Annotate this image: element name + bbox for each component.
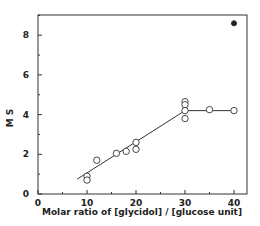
data-points: [84, 21, 237, 184]
y-axis-title: M S: [5, 109, 15, 128]
open-data-point: [182, 115, 188, 121]
trend-line: [77, 111, 234, 179]
axis-ticks: [38, 15, 234, 194]
trend-line-path: [77, 111, 234, 179]
open-data-point: [113, 150, 119, 156]
open-data-point: [206, 106, 212, 112]
x-tick-label: 0: [35, 198, 41, 208]
open-data-point: [182, 107, 188, 113]
ms-vs-molar-ratio-chart: 01020304002468 M S Molar ratio of [glyci…: [0, 0, 260, 226]
open-data-point: [94, 157, 100, 163]
open-data-point: [133, 139, 139, 145]
open-data-point: [123, 148, 129, 154]
y-tick-label: 6: [23, 70, 29, 80]
open-data-point: [133, 146, 139, 152]
y-tick-label: 0: [23, 189, 29, 199]
x-axis-title: Molar ratio of [glycidol] / [glucose uni…: [42, 207, 242, 217]
plot-frame: [38, 15, 247, 194]
tick-labels: 01020304002468: [23, 30, 241, 208]
open-data-point: [84, 177, 90, 183]
filled-data-point: [231, 21, 236, 26]
open-data-point: [182, 101, 188, 107]
y-tick-label: 2: [23, 149, 29, 159]
y-tick-label: 8: [23, 30, 29, 40]
open-data-point: [231, 107, 237, 113]
y-tick-label: 4: [23, 110, 29, 120]
